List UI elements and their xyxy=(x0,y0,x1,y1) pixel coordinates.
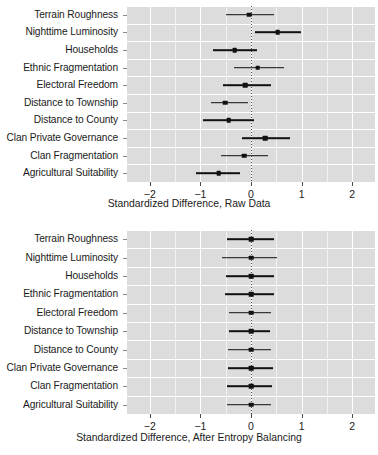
category-label: Electoral Freedom xyxy=(36,80,118,90)
category-axis-tick xyxy=(123,156,127,157)
point-estimate-marker xyxy=(249,311,254,316)
confidence-interval-bar xyxy=(211,102,249,104)
category-axis-tick xyxy=(123,294,127,295)
entropy-balanced-x-axis-title: Standardized Difference, After Entropy B… xyxy=(0,432,378,443)
category-label: Clan Private Governance xyxy=(6,363,118,373)
category-axis-tick xyxy=(123,258,127,259)
category-label: Clan Fragmentation xyxy=(30,381,118,391)
x-axis-tick xyxy=(251,414,252,418)
estimate-row xyxy=(127,239,375,240)
x-axis-tick-label: −2 xyxy=(144,420,156,432)
estimate-row xyxy=(127,156,375,157)
x-axis-tick-label: −1 xyxy=(194,420,206,432)
x-axis-tick-label: 2 xyxy=(349,420,355,432)
estimate-row xyxy=(127,50,375,51)
category-label: Electoral Freedom xyxy=(36,308,118,318)
x-axis-tick-label: 0 xyxy=(248,420,254,432)
x-axis-tick xyxy=(302,414,303,418)
raw-data-panel: Terrain RoughnessNighttime LuminosityHou… xyxy=(0,0,378,222)
category-axis-tick xyxy=(123,85,127,86)
estimate-row xyxy=(127,85,375,86)
raw-data-x-axis-title: Standardized Difference, Raw Data xyxy=(0,198,378,209)
estimate-row xyxy=(127,258,375,259)
raw-data-category-labels: Terrain RoughnessNighttime LuminosityHou… xyxy=(0,0,122,222)
x-axis-tick xyxy=(150,414,151,418)
category-axis-tick xyxy=(123,138,127,139)
category-axis-tick xyxy=(123,350,127,351)
category-axis-tick xyxy=(123,120,127,121)
category-axis-tick xyxy=(123,103,127,104)
x-axis-tick xyxy=(200,182,201,186)
estimate-row xyxy=(127,313,375,314)
estimate-row xyxy=(127,32,375,33)
entropy-balanced-panel: Terrain RoughnessNighttime LuminosityHou… xyxy=(0,222,378,455)
category-label: Nighttime Luminosity xyxy=(25,27,118,37)
category-label: Terrain Roughness xyxy=(34,10,118,20)
estimate-row xyxy=(127,350,375,351)
category-axis-tick xyxy=(123,239,127,240)
point-estimate-marker xyxy=(242,153,247,158)
category-label: Households xyxy=(65,45,118,55)
x-axis-tick xyxy=(352,182,353,186)
category-label: Agricultural Suitability xyxy=(23,168,118,178)
x-axis-tick xyxy=(302,182,303,186)
point-estimate-marker xyxy=(249,292,254,297)
category-axis-tick xyxy=(123,32,127,33)
point-estimate-marker xyxy=(249,384,254,389)
estimate-row xyxy=(127,15,375,16)
point-estimate-marker xyxy=(249,366,254,371)
category-label: Distance to County xyxy=(34,345,118,355)
category-label: Terrain Roughness xyxy=(34,234,118,244)
point-estimate-marker xyxy=(249,403,254,408)
category-label: Households xyxy=(65,271,118,281)
point-estimate-marker xyxy=(249,329,254,334)
x-axis-tick xyxy=(352,414,353,418)
x-axis-tick-label: 1 xyxy=(299,420,305,432)
category-axis-tick xyxy=(123,368,127,369)
point-estimate-marker xyxy=(249,255,254,260)
point-estimate-marker xyxy=(223,101,228,106)
estimate-row xyxy=(127,386,375,387)
category-label: Clan Private Governance xyxy=(6,133,118,143)
x-axis-tick xyxy=(150,182,151,186)
point-estimate-marker xyxy=(249,347,254,352)
point-estimate-marker xyxy=(249,274,254,279)
category-axis-tick xyxy=(123,15,127,16)
category-axis-tick xyxy=(123,50,127,51)
category-label: Distance to Township xyxy=(24,326,118,336)
category-label: Nighttime Luminosity xyxy=(25,253,118,263)
point-estimate-marker xyxy=(249,237,254,242)
estimate-row xyxy=(127,173,375,174)
x-axis-tick xyxy=(200,414,201,418)
point-estimate-marker xyxy=(255,65,260,70)
category-axis-tick xyxy=(123,313,127,314)
category-axis-tick xyxy=(123,405,127,406)
category-label: Ethnic Fragmentation xyxy=(23,289,118,299)
point-estimate-marker xyxy=(233,48,238,53)
category-axis-tick xyxy=(123,173,127,174)
estimate-row xyxy=(127,405,375,406)
estimate-row xyxy=(127,331,375,332)
point-estimate-marker xyxy=(243,83,248,88)
category-axis-tick xyxy=(123,386,127,387)
point-estimate-marker xyxy=(226,118,231,123)
raw-data-plot-area xyxy=(127,6,375,182)
category-label: Distance to Township xyxy=(24,98,118,108)
category-label: Clan Fragmentation xyxy=(30,151,118,161)
estimate-row xyxy=(127,138,375,139)
category-axis-tick xyxy=(123,68,127,69)
estimate-row xyxy=(127,368,375,369)
entropy-balanced-category-labels: Terrain RoughnessNighttime LuminosityHou… xyxy=(0,222,122,455)
estimate-row xyxy=(127,120,375,121)
point-estimate-marker xyxy=(276,30,281,35)
point-estimate-marker xyxy=(216,171,221,176)
estimate-row xyxy=(127,103,375,104)
estimate-row xyxy=(127,276,375,277)
category-axis-tick xyxy=(123,331,127,332)
estimate-row xyxy=(127,68,375,69)
estimate-row xyxy=(127,294,375,295)
category-label: Distance to County xyxy=(34,115,118,125)
category-axis-tick xyxy=(123,276,127,277)
category-label: Agricultural Suitability xyxy=(23,400,118,410)
x-axis-tick xyxy=(251,182,252,186)
